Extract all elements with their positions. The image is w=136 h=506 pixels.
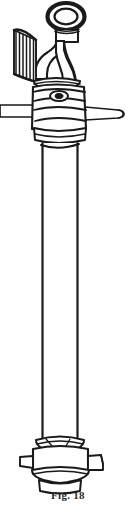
standpipe-illustration bbox=[0, 0, 136, 506]
valve-body bbox=[32, 85, 86, 133]
figure-container: Fig. 18 bbox=[0, 0, 136, 506]
threaded-outlet bbox=[14, 29, 36, 82]
base-lug-right bbox=[88, 455, 103, 470]
standpipe-shaft bbox=[41, 143, 79, 440]
lifting-eye bbox=[48, 3, 85, 30]
bolt-head bbox=[50, 91, 68, 101]
base-lug-left bbox=[20, 456, 33, 468]
figure-caption: Fig. 18 bbox=[0, 489, 136, 501]
lower-collar bbox=[34, 128, 86, 143]
